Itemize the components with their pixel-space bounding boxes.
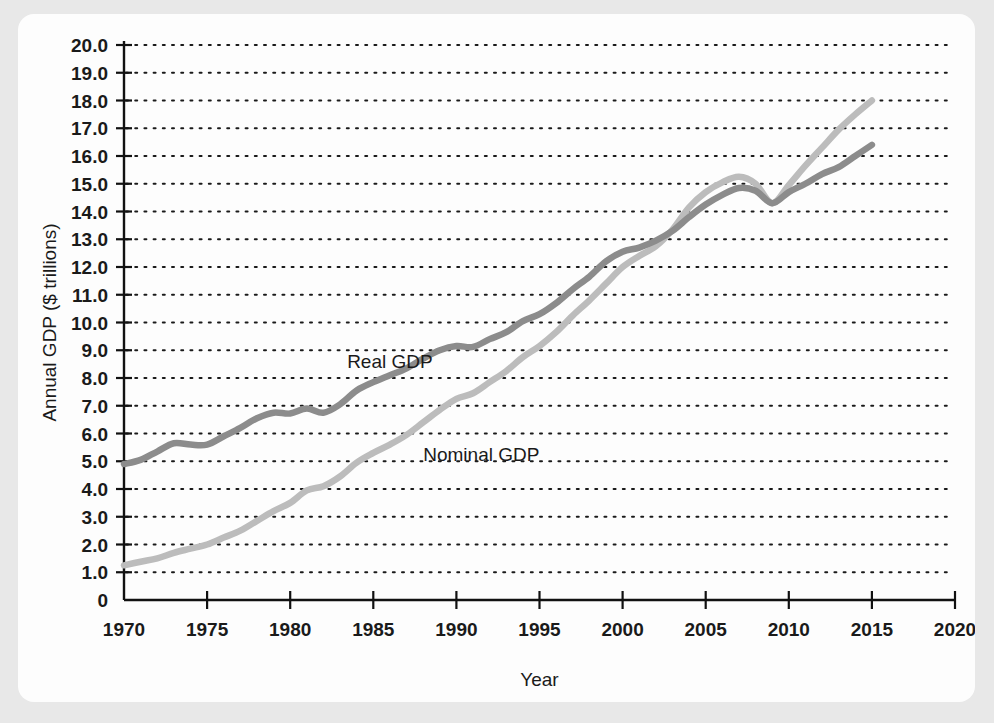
- y-tick-label-5: 5.0: [82, 451, 108, 472]
- y-tick-label-2: 2.0: [82, 535, 108, 556]
- x-tick-label-2020: 2020: [934, 619, 975, 640]
- y-tick-label-0: 0: [97, 590, 108, 611]
- y-tick-label-14: 14.0: [71, 202, 108, 223]
- x-axis-title: Year: [520, 669, 559, 690]
- series-label-real-gdp: Real GDP: [347, 351, 433, 372]
- y-tick-label-9: 9.0: [82, 340, 108, 361]
- chart-canvas: 01.02.03.04.05.06.07.08.09.010.011.012.0…: [18, 14, 975, 702]
- y-tick-label-4: 4.0: [82, 479, 108, 500]
- x-tick-label-2010: 2010: [768, 619, 810, 640]
- y-tick-label-18: 18.0: [71, 91, 108, 112]
- y-tick-label-8: 8.0: [82, 368, 108, 389]
- y-tick-label-13: 13.0: [71, 229, 108, 250]
- y-tick-label-19: 19.0: [71, 63, 108, 84]
- x-tick-label-1975: 1975: [186, 619, 229, 640]
- y-tick-label-20: 20.0: [71, 35, 108, 56]
- y-tick-label-7: 7.0: [82, 396, 108, 417]
- x-tick-label-1995: 1995: [518, 619, 561, 640]
- y-axis-title: Annual GDP ($ trillions): [39, 223, 60, 421]
- x-tick-label-1980: 1980: [269, 619, 311, 640]
- data-series-group: [124, 101, 872, 566]
- x-tick-label-2005: 2005: [685, 619, 728, 640]
- y-tick-label-6: 6.0: [82, 424, 108, 445]
- x-tick-label-1985: 1985: [352, 619, 395, 640]
- gdp-line-chart: 01.02.03.04.05.06.07.08.09.010.011.012.0…: [18, 14, 975, 702]
- axes-group: [116, 41, 955, 609]
- y-tick-label-1: 1.0: [82, 562, 108, 583]
- chart-card: 01.02.03.04.05.06.07.08.09.010.011.012.0…: [18, 14, 975, 702]
- y-tick-label-16: 16.0: [71, 146, 108, 167]
- series-line-real-gdp: [124, 145, 872, 464]
- y-tick-label-11: 11.0: [72, 285, 108, 306]
- x-tick-label-1990: 1990: [435, 619, 477, 640]
- x-tick-label-1970: 1970: [103, 619, 145, 640]
- y-tick-labels: 01.02.03.04.05.06.07.08.09.010.011.012.0…: [71, 35, 108, 611]
- x-tick-labels: 1970197519801985199019952000200520102015…: [103, 619, 975, 640]
- page-root: 01.02.03.04.05.06.07.08.09.010.011.012.0…: [0, 0, 994, 723]
- y-tick-label-17: 17.0: [71, 118, 108, 139]
- y-tick-label-3: 3.0: [82, 507, 108, 528]
- y-tick-label-12: 12.0: [71, 257, 108, 278]
- y-tick-label-10: 10.0: [71, 313, 108, 334]
- gridlines-group: [126, 45, 949, 572]
- y-tick-label-15: 15.0: [71, 174, 108, 195]
- x-tick-label-2000: 2000: [601, 619, 643, 640]
- x-tick-label-2015: 2015: [851, 619, 894, 640]
- series-label-nominal-gdp: Nominal GDP: [423, 444, 539, 465]
